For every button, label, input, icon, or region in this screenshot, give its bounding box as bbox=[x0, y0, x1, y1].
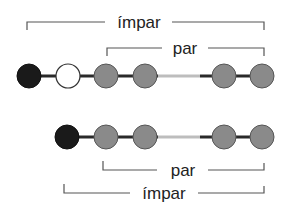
node-gray bbox=[250, 64, 274, 88]
node-gray bbox=[133, 125, 157, 149]
node-gray bbox=[133, 64, 157, 88]
node-gray bbox=[212, 64, 236, 88]
bottom-par-label: par bbox=[171, 161, 196, 180]
bottom-par-bracket: par bbox=[103, 161, 264, 180]
node-gray bbox=[94, 64, 118, 88]
bottom-impar-bracket: ímpar bbox=[64, 184, 264, 203]
node-gray bbox=[94, 125, 118, 149]
top-impar-bracket: ímpar bbox=[27, 13, 264, 32]
chain-parity-diagram: ímpar par par bbox=[0, 0, 291, 209]
node-black bbox=[55, 125, 79, 149]
node-white bbox=[56, 64, 80, 88]
node-black bbox=[17, 64, 41, 88]
top-par-label: par bbox=[173, 39, 198, 58]
top-impar-label: ímpar bbox=[117, 13, 161, 32]
bottom-impar-label: ímpar bbox=[142, 184, 186, 203]
top-par-bracket: par bbox=[107, 39, 264, 58]
top-chain-nodes bbox=[17, 64, 274, 88]
node-gray bbox=[212, 125, 236, 149]
node-gray bbox=[250, 125, 274, 149]
